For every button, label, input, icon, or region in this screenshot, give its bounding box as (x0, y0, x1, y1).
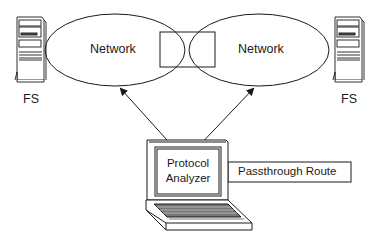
protocol-analyzer-label: Protocol Analyzer (157, 156, 219, 186)
server-icon-right (333, 17, 364, 82)
passthrough-route-label: Passthrough Route (238, 165, 336, 177)
fs-label-left: FS (23, 92, 39, 106)
bridge-box (160, 32, 215, 67)
analyzer-line-1: Protocol (157, 156, 219, 171)
server-icon-left (15, 17, 46, 82)
diagram-canvas (0, 0, 378, 241)
network-label-right: Network (238, 42, 284, 56)
network-label-left: Network (90, 42, 136, 56)
fs-label-right: FS (341, 92, 357, 106)
analyzer-line-2: Analyzer (157, 171, 219, 186)
